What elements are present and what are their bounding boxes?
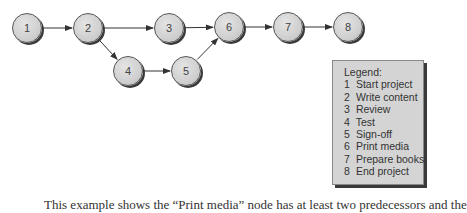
- node-6: 6: [214, 12, 244, 42]
- node-2: 2: [73, 13, 103, 43]
- legend-item-number: 7: [344, 153, 353, 165]
- legend-item: 1 Start project: [344, 78, 423, 90]
- edge-2-4: [99, 40, 117, 60]
- legend-item-label: Sign-off: [356, 128, 392, 140]
- legend-item-number: 2: [344, 91, 353, 103]
- legend-item-number: 1: [344, 78, 353, 90]
- legend-item: 6 Print media: [344, 140, 423, 152]
- legend-item-label: Test: [356, 116, 375, 128]
- caption-text: This example shows the “Print media” nod…: [44, 197, 467, 213]
- legend-item-number: 5: [344, 128, 353, 140]
- node-5: 5: [171, 56, 201, 86]
- legend-box: Legend: 1 Start project 2 Write content …: [332, 60, 424, 185]
- legend-item-label: Start project: [356, 78, 413, 90]
- legend-item-label: Review: [356, 103, 390, 115]
- legend-item-number: 8: [344, 165, 353, 177]
- legend-item: 8 End project: [344, 165, 423, 177]
- legend-item-label: Prepare books: [356, 153, 424, 165]
- legend-title: Legend:: [344, 66, 423, 78]
- legend-item-number: 3: [344, 103, 353, 115]
- legend-item: 4 Test: [344, 116, 423, 128]
- legend-item: 5 Sign-off: [344, 128, 423, 140]
- node-8: 8: [333, 12, 363, 42]
- legend-item-label: Write content: [356, 91, 418, 103]
- legend-item: 2 Write content: [344, 91, 423, 103]
- legend-item-label: Print media: [356, 140, 409, 152]
- legend-item-number: 6: [344, 140, 353, 152]
- node-3: 3: [154, 13, 184, 43]
- edge-5-6: [197, 38, 218, 59]
- legend-item: 3 Review: [344, 103, 423, 115]
- node-4: 4: [113, 56, 143, 86]
- legend-item: 7 Prepare books: [344, 153, 423, 165]
- node-1: 1: [12, 13, 42, 43]
- node-7: 7: [273, 12, 303, 42]
- legend-item-label: End project: [356, 165, 409, 177]
- legend-item-number: 4: [344, 116, 353, 128]
